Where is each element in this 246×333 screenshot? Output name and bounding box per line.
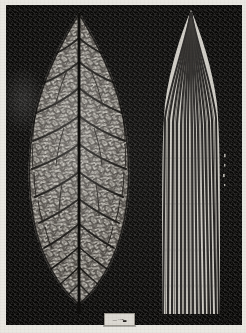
- specimen-label-text: — · ─▪▃: [113, 317, 126, 322]
- botanical-plate-page: — · ─▪▃ Leaf skeletons: netted venation …: [0, 0, 246, 333]
- monocot-lamina: [150, 8, 234, 314]
- specimen-monocot-leaf: [150, 8, 234, 314]
- plate-caption: Leaf skeletons: netted venation compared…: [0, 0, 1, 1]
- monocot-leaf-drawing: [150, 8, 234, 314]
- specimen-label-card: — · ─▪▃: [104, 313, 135, 326]
- plate-speckles: [223, 154, 226, 186]
- dicot-leaf-drawing: [12, 8, 146, 314]
- specimen-dicot-leaf: [12, 8, 146, 314]
